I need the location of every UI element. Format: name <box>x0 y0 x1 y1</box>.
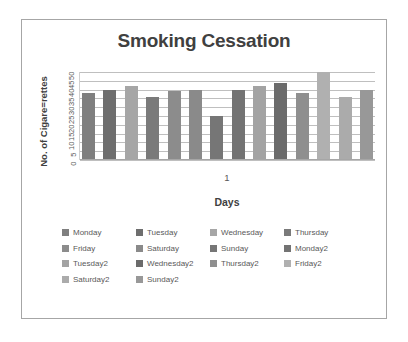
y-tick-35: 35 <box>54 97 76 106</box>
legend-swatch-icon <box>210 260 217 267</box>
chart-title: Smoking Cessation <box>22 30 386 52</box>
legend-swatch-icon <box>62 229 69 236</box>
legend-swatch-icon <box>210 229 217 236</box>
legend-item-saturday2[interactable]: Saturday2 <box>62 275 136 284</box>
legend-item-tuesday[interactable]: Tuesday <box>136 228 210 237</box>
y-tick-25: 25 <box>54 115 76 124</box>
legend-item-friday2[interactable]: Friday2 <box>284 259 358 268</box>
x-axis-category-label: 1 <box>79 172 375 183</box>
chart-frame: Smoking Cessation No. of Cigare=rettes 5… <box>21 19 387 319</box>
legend-item-tuesday2[interactable]: Tuesday2 <box>62 259 136 268</box>
y-tick-50: 50 <box>54 71 76 80</box>
bar-friday2[interactable] <box>317 72 330 160</box>
legend-item-wednesday2[interactable]: Wednesday2 <box>136 259 210 268</box>
legend-item-thursday2[interactable]: Thursday2 <box>210 259 284 268</box>
legend-swatch-icon <box>284 245 291 252</box>
legend-item-thursday[interactable]: Thursday <box>284 228 358 237</box>
legend-swatch-icon <box>136 229 143 236</box>
bar-monday[interactable] <box>82 93 95 160</box>
bar-sunday[interactable] <box>210 116 223 160</box>
bar-tuesday[interactable] <box>103 90 116 160</box>
legend-label: Wednesday2 <box>147 259 194 268</box>
y-axis-title: No. of Cigare=rettes <box>36 82 50 160</box>
legend-swatch-icon <box>136 245 143 252</box>
legend-swatch-icon <box>136 276 143 283</box>
legend-row: Saturday2Sunday2 <box>62 275 362 284</box>
plot-area-wrapper: No. of Cigare=rettes 5045403530252015105… <box>22 68 388 168</box>
y-tick-10: 10 <box>54 141 76 150</box>
bar-saturday[interactable] <box>189 90 202 160</box>
legend-item-friday[interactable]: Friday <box>62 244 136 253</box>
legend-label: Friday2 <box>295 259 322 268</box>
legend-swatch-icon <box>210 245 217 252</box>
legend-label: Sunday2 <box>147 275 179 284</box>
y-axis-tick-labels: 50454035302520151050 <box>54 72 76 164</box>
y-tick-5: 5 <box>54 150 76 159</box>
legend-label: Thursday <box>295 228 328 237</box>
chart-legend: MondayTuesdayWednesdayThursdayFridaySatu… <box>62 228 362 290</box>
y-tick-15: 15 <box>54 133 76 142</box>
bar-sunday2[interactable] <box>360 90 373 160</box>
gridline <box>80 160 375 161</box>
legend-swatch-icon <box>62 245 69 252</box>
legend-label: Monday <box>73 228 101 237</box>
legend-label: Monday2 <box>295 244 328 253</box>
bar-friday[interactable] <box>168 91 181 160</box>
bar-wednesday2[interactable] <box>274 83 287 160</box>
legend-label: Friday <box>73 244 95 253</box>
y-axis-title-label: No. of Cigare=rettes <box>38 76 49 167</box>
legend-item-sunday[interactable]: Sunday <box>210 244 284 253</box>
y-tick-20: 20 <box>54 124 76 133</box>
legend-swatch-icon <box>136 260 143 267</box>
legend-row: MondayTuesdayWednesdayThursday <box>62 228 362 237</box>
y-tick-45: 45 <box>54 80 76 89</box>
y-tick-40: 40 <box>54 89 76 98</box>
legend-label: Tuesday <box>147 228 177 237</box>
legend-swatch-icon <box>284 260 291 267</box>
legend-item-monday[interactable]: Monday <box>62 228 136 237</box>
legend-item-wednesday[interactable]: Wednesday <box>210 228 284 237</box>
y-tick-30: 30 <box>54 106 76 115</box>
legend-item-sunday2[interactable]: Sunday2 <box>136 275 210 284</box>
plot-area <box>79 72 375 160</box>
bar-group <box>80 72 375 160</box>
legend-swatch-icon <box>62 276 69 283</box>
legend-swatch-icon <box>284 229 291 236</box>
legend-row: FridaySaturdaySundayMonday2 <box>62 244 362 253</box>
legend-item-monday2[interactable]: Monday2 <box>284 244 358 253</box>
legend-swatch-icon <box>62 260 69 267</box>
bar-saturday2[interactable] <box>339 97 352 160</box>
bar-wednesday[interactable] <box>125 86 138 160</box>
y-tick-0: 0 <box>54 159 76 168</box>
legend-label: Tuesday2 <box>73 259 108 268</box>
legend-item-saturday[interactable]: Saturday <box>136 244 210 253</box>
x-axis-title: Days <box>79 196 375 208</box>
legend-label: Sunday <box>221 244 248 253</box>
x-axis-line <box>80 159 375 160</box>
bar-tuesday2[interactable] <box>253 86 266 160</box>
legend-label: Thursday2 <box>221 259 259 268</box>
legend-label: Wednesday <box>221 228 263 237</box>
legend-label: Saturday <box>147 244 179 253</box>
legend-label: Saturday2 <box>73 275 109 284</box>
bar-thursday[interactable] <box>146 97 159 160</box>
bar-monday2[interactable] <box>232 90 245 160</box>
bar-thursday2[interactable] <box>296 93 309 160</box>
legend-row: Tuesday2Wednesday2Thursday2Friday2 <box>62 259 362 268</box>
